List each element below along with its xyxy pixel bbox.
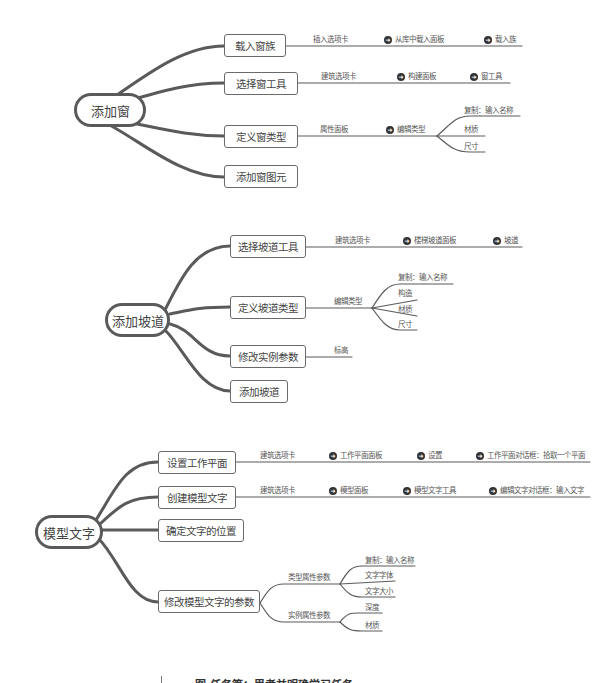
arrow-right-circle-icon: ➜ (417, 452, 425, 460)
arrow-right-circle-icon: ➜ (489, 487, 497, 495)
step-label: ➜楼梯坡道面板 (403, 236, 456, 246)
root-node-add-window[interactable]: 添加窗 (74, 93, 146, 127)
node-position-text[interactable]: 确定文字的位置 (158, 519, 244, 542)
child-label: 文字大小 (365, 587, 393, 597)
arrow-right-circle-icon: ➜ (476, 452, 484, 460)
step-label: 建筑选项卡 (335, 236, 370, 246)
root-node-model-text[interactable]: 模型文字 (35, 515, 103, 549)
step-label: ➜工作平面对话框：拾取一个平面 (476, 451, 585, 461)
group-label: 实例属性参数 (288, 611, 330, 621)
step-label: ➜坡道 (493, 236, 518, 246)
step-label: ➜从库中载入面板 (384, 35, 444, 45)
node-select-window-tool[interactable]: 选择窗工具 (224, 72, 298, 95)
node-define-window-type[interactable]: 定义窗类型 (224, 125, 298, 148)
child-label: 尺寸 (398, 320, 412, 330)
step-label: ➜模型文字工具 (403, 486, 456, 496)
child-label: 材质 (365, 621, 379, 631)
step-label: 建筑选项卡 (260, 451, 295, 461)
step-label: 标高 (334, 346, 348, 356)
step-label: ➜编辑文字对话框：输入文字 (489, 486, 584, 496)
step-label: ➜编辑类型 (386, 125, 425, 135)
arrow-right-circle-icon: ➜ (384, 36, 392, 44)
step-label: ➜工作平面面板 (329, 451, 382, 461)
step-label: 建筑选项卡 (321, 72, 356, 82)
child-label: 材质 (464, 125, 478, 135)
node-load-window-family[interactable]: 载入窗族 (224, 34, 286, 57)
node-create-model-text[interactable]: 创建模型文字 (158, 486, 236, 509)
node-add-window-element[interactable]: 添加窗图元 (224, 165, 298, 188)
child-label: 构造 (398, 289, 412, 299)
figure-caption: 图 任务篇：思考并明确学习任务 (195, 676, 353, 683)
child-label: 复制：输入名称 (398, 273, 447, 283)
child-label: 材质 (398, 305, 412, 315)
node-add-ramp[interactable]: 添加坡道 (230, 380, 288, 403)
step-label: 插入选项卡 (313, 35, 348, 45)
arrow-right-circle-icon: ➜ (397, 73, 405, 81)
arrow-right-circle-icon: ➜ (403, 237, 411, 245)
child-label: 深度 (365, 603, 379, 613)
step-label: ➜构建面板 (397, 72, 436, 82)
step-label: ➜窗工具 (470, 72, 502, 82)
step-label: 属性面板 (320, 125, 348, 135)
arrow-right-circle-icon: ➜ (403, 487, 411, 495)
child-label: 复制：输入名称 (365, 556, 414, 566)
node-select-ramp-tool[interactable]: 选择坡道工具 (230, 235, 306, 258)
child-label: 尺寸 (464, 142, 478, 152)
child-label: 文字字体 (365, 571, 393, 581)
caption-tick (161, 676, 162, 683)
node-modify-model-text-params[interactable]: 修改模型文字的参数 (158, 590, 260, 613)
arrow-right-circle-icon: ➜ (484, 36, 492, 44)
step-label: ➜设置 (417, 451, 442, 461)
arrow-right-circle-icon: ➜ (329, 452, 337, 460)
node-set-work-plane[interactable]: 设置工作平面 (158, 451, 236, 474)
node-modify-instance-params[interactable]: 修改实例参数 (230, 345, 306, 368)
child-label: 复制：输入名称 (464, 106, 513, 116)
step-label: 编辑类型 (334, 297, 362, 307)
root-node-add-ramp[interactable]: 添加坡道 (105, 303, 170, 337)
arrow-right-circle-icon: ➜ (386, 126, 394, 134)
group-label: 类型属性参数 (288, 573, 330, 583)
node-define-ramp-type[interactable]: 定义坡道类型 (230, 296, 306, 319)
arrow-right-circle-icon: ➜ (470, 73, 478, 81)
step-label: ➜模型面板 (329, 486, 368, 496)
arrow-right-circle-icon: ➜ (329, 487, 337, 495)
step-label: 建筑选项卡 (260, 486, 295, 496)
arrow-right-circle-icon: ➜ (493, 237, 501, 245)
step-label: ➜载入族 (484, 35, 516, 45)
